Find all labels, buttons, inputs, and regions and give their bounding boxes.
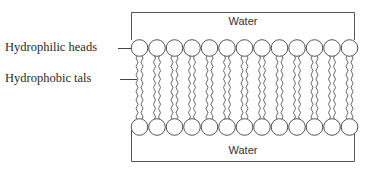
hydrophilic-head	[236, 119, 253, 136]
hydrophilic-head	[166, 40, 183, 57]
phospholipid	[289, 90, 306, 136]
bilayer-artwork	[0, 0, 370, 171]
bottom-water-label: Water	[229, 145, 258, 156]
phospholipid	[201, 40, 218, 90]
phospholipid	[271, 40, 288, 90]
hydrophilic-head	[254, 119, 271, 136]
hydrophilic-head	[184, 40, 201, 57]
hydrophilic-heads-label: Hydrophilic heads	[5, 41, 97, 54]
phospholipid	[201, 90, 218, 136]
phospholipid	[166, 40, 183, 90]
top-water-label: Water	[229, 16, 258, 27]
phospholipid	[254, 40, 271, 90]
phospholipid	[324, 40, 341, 90]
hydrophilic-head	[341, 40, 358, 57]
phospholipid	[341, 40, 358, 90]
hydrophilic-head	[271, 40, 288, 57]
hydrophilic-head	[131, 40, 148, 57]
hydrophilic-head	[324, 119, 341, 136]
hydrophilic-head	[289, 119, 306, 136]
hydrophilic-head	[166, 119, 183, 136]
hydrophilic-head	[219, 40, 236, 57]
phospholipid	[149, 40, 166, 90]
phospholipid	[236, 90, 253, 136]
phospholipid	[131, 90, 148, 136]
phospholipid	[236, 40, 253, 90]
hydrophilic-head	[306, 119, 323, 136]
hydrophilic-head	[219, 119, 236, 136]
hydrophilic-head	[149, 119, 166, 136]
bottom-leaflet	[131, 90, 358, 136]
phospholipid	[184, 90, 201, 136]
hydrophilic-head	[201, 40, 218, 57]
hydrophilic-head	[341, 119, 358, 136]
phospholipid	[219, 40, 236, 90]
top-leaflet	[131, 40, 358, 90]
phospholipid	[306, 40, 323, 90]
phospholipid	[254, 90, 271, 136]
bilayer-diagram: Water Water Hydrophilic heads Hydrophobi…	[0, 0, 370, 171]
hydrophilic-head	[184, 119, 201, 136]
phospholipid	[306, 90, 323, 136]
hydrophobic-tails-label: Hydrophobic tals	[5, 72, 91, 85]
phospholipid	[184, 40, 201, 90]
phospholipid	[289, 40, 306, 90]
phospholipid	[166, 90, 183, 136]
phospholipid	[271, 90, 288, 136]
phospholipid	[219, 90, 236, 136]
phospholipid	[149, 90, 166, 136]
phospholipid	[324, 90, 341, 136]
hydrophilic-head	[236, 40, 253, 57]
phospholipid	[341, 90, 358, 136]
hydrophilic-head	[201, 119, 218, 136]
hydrophilic-head	[131, 119, 148, 136]
hydrophilic-head	[289, 40, 306, 57]
hydrophilic-head	[306, 40, 323, 57]
hydrophilic-head	[271, 119, 288, 136]
hydrophilic-head	[324, 40, 341, 57]
hydrophilic-head	[149, 40, 166, 57]
phospholipid	[131, 40, 148, 90]
hydrophilic-head	[254, 40, 271, 57]
